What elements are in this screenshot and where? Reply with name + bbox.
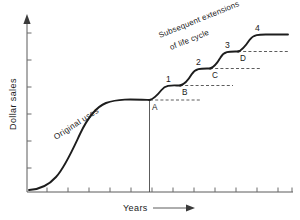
- curve-extension-4: [238, 34, 288, 51]
- x-axis: [27, 188, 293, 193]
- y-axis: [23, 14, 31, 192]
- segment-label-3: 3: [225, 40, 230, 50]
- point-label-c: C: [212, 71, 218, 80]
- curve-extension-2: [180, 68, 211, 85]
- segment-label-2: 2: [196, 57, 201, 67]
- y-axis-arrowhead: [23, 14, 30, 24]
- y-axis-title: Dollar sales: [8, 78, 18, 130]
- chart-figure: A B C D 1 2 3 4 Original uses Subsequent…: [0, 0, 300, 220]
- annotation-original-uses: Original uses: [52, 106, 100, 142]
- point-label-a: A: [152, 103, 158, 112]
- product-life-cycle-chart: A B C D 1 2 3 4 Original uses Subsequent…: [0, 0, 300, 220]
- segment-label-4: 4: [255, 23, 260, 33]
- point-label-b: B: [182, 88, 188, 97]
- curve-extension-3: [210, 51, 239, 68]
- x-axis-title-arrow: [153, 205, 195, 212]
- x-axis-title: Years: [123, 203, 148, 213]
- curve-extension-1: [150, 85, 182, 100]
- segment-label-1: 1: [166, 74, 171, 84]
- point-label-d: D: [240, 54, 246, 63]
